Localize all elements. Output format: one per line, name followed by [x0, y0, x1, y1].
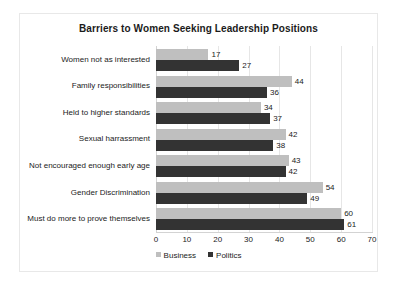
bar-value-label: 38 [276, 140, 285, 151]
bar-politics[interactable] [156, 140, 273, 151]
category-label: Family responsibilities [0, 80, 150, 91]
gridline-70 [372, 46, 373, 232]
legend-swatch-icon [208, 252, 213, 257]
bar-value-label: 36 [270, 87, 279, 98]
bar-politics[interactable] [156, 60, 239, 71]
bar-politics[interactable] [156, 219, 344, 230]
x-axis-line [156, 232, 373, 233]
bar-business[interactable] [156, 182, 323, 193]
legend-item[interactable]: Business [156, 251, 196, 260]
bar-group: Must do more to prove themselves6061 [156, 205, 372, 232]
bar-group: Women not as interested1727 [156, 46, 372, 73]
x-tick-label: 60 [337, 235, 346, 244]
bar-business[interactable] [156, 102, 261, 113]
bar-business[interactable] [156, 155, 289, 166]
chart-container: Barriers to Women Seeking Leadership Pos… [19, 13, 378, 272]
bar-politics[interactable] [156, 166, 286, 177]
bar-value-label: 37 [273, 113, 282, 124]
x-tick-label: 40 [275, 235, 284, 244]
x-tick-label: 0 [154, 235, 158, 244]
bar-politics[interactable] [156, 87, 267, 98]
x-tick-label: 50 [306, 235, 315, 244]
chart-title: Barriers to Women Seeking Leadership Pos… [20, 23, 377, 34]
legend-label: Business [164, 251, 196, 260]
bar-politics[interactable] [156, 193, 307, 204]
bar-group: Gender Discrimination5449 [156, 179, 372, 206]
bar-business[interactable] [156, 76, 292, 87]
legend-item[interactable]: Politics [208, 251, 241, 260]
bar-group: Family responsibilities4436 [156, 73, 372, 100]
bar-business[interactable] [156, 49, 208, 60]
x-tick-label: 70 [368, 235, 377, 244]
bar-value-label: 44 [295, 76, 304, 87]
plot-area: Women not as interested1727Family respon… [156, 46, 372, 232]
bar-group: Not encouraged enough early age4342 [156, 152, 372, 179]
category-label: Not encouraged enough early age [0, 160, 150, 171]
bar-value-label: 54 [326, 182, 335, 193]
bar-value-label: 60 [344, 208, 353, 219]
bar-value-label: 49 [310, 193, 319, 204]
category-label: Must do more to prove themselves [0, 213, 150, 224]
x-tick-label: 20 [213, 235, 222, 244]
bar-politics[interactable] [156, 113, 270, 124]
legend-label: Politics [216, 251, 241, 260]
chart-legend: BusinessPolitics [20, 251, 377, 260]
bar-value-label: 34 [264, 102, 273, 113]
bar-value-label: 27 [242, 60, 251, 71]
bar-business[interactable] [156, 129, 286, 140]
bar-value-label: 43 [292, 155, 301, 166]
bar-value-label: 42 [289, 166, 298, 177]
category-label: Women not as interested [0, 54, 150, 65]
category-label: Held to higher standards [0, 107, 150, 118]
x-tick-label: 30 [244, 235, 253, 244]
bar-business[interactable] [156, 208, 341, 219]
bar-value-label: 42 [289, 129, 298, 140]
x-tick-label: 10 [182, 235, 191, 244]
bar-value-label: 61 [347, 219, 356, 230]
bar-group: Sexual harrassment4238 [156, 126, 372, 153]
bar-group: Held to higher standards3437 [156, 99, 372, 126]
category-label: Sexual harrassment [0, 133, 150, 144]
bar-value-label: 17 [211, 49, 220, 60]
category-label: Gender Discrimination [0, 187, 150, 198]
legend-swatch-icon [156, 252, 161, 257]
